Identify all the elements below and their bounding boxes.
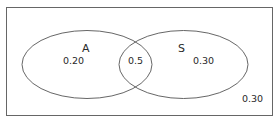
- set-a-label: A: [82, 42, 90, 55]
- intersection-value: 0.5: [128, 55, 143, 66]
- universe-outside-value: 0.30: [242, 93, 263, 104]
- set-s-label: S: [178, 42, 185, 55]
- set-a-only-value: 0.20: [63, 55, 84, 66]
- venn-diagram: A 0.20 0.5 S 0.30 0.30: [0, 0, 279, 123]
- set-s-only-value: 0.30: [193, 55, 214, 66]
